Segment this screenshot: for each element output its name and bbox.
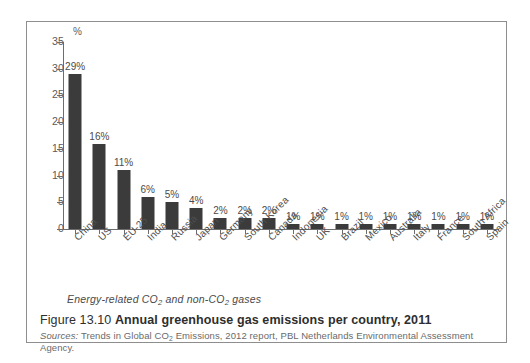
bar-value-label: 1% xyxy=(334,211,348,222)
figure-sources-label: Sources: xyxy=(40,330,78,341)
bar[interactable] xyxy=(93,144,106,229)
bar-value-label: 16% xyxy=(89,131,109,142)
y-axis-tick: 5 xyxy=(27,202,64,203)
bar-group[interactable]: 5% xyxy=(160,42,184,229)
bar-group[interactable]: 11% xyxy=(111,42,135,229)
figure-frame: % 05101520253035 29%16%11%6%5%4%2%2%2%1%… xyxy=(26,21,507,343)
y-axis-tick: 0 xyxy=(27,229,64,230)
bar-group[interactable]: 1% xyxy=(451,42,475,229)
bar-group[interactable]: 4% xyxy=(184,42,208,229)
bar-value-label: 4% xyxy=(189,195,203,206)
chart-note: Energy-related CO2 and non-CO2 gases xyxy=(67,293,261,307)
y-axis-tick: 10 xyxy=(27,176,64,177)
bar-group[interactable]: 1% xyxy=(354,42,378,229)
bar-group[interactable]: 1% xyxy=(378,42,402,229)
y-axis-tick: 35 xyxy=(27,42,64,43)
y-axis-tick-label: 35 xyxy=(40,35,64,47)
figure-caption-number: Figure 13.10 xyxy=(40,313,111,327)
bar-value-label: 11% xyxy=(114,157,133,168)
bar-group[interactable]: 2% xyxy=(208,42,232,229)
figure-sources: Sources: Trends in Global CO2 Emissions,… xyxy=(40,330,506,353)
bar-group[interactable]: 1% xyxy=(305,42,329,229)
y-axis-unit-label: % xyxy=(73,26,82,37)
bar-value-label: 1% xyxy=(431,211,445,222)
y-axis-tick-label: 5 xyxy=(40,195,64,207)
y-axis-tick: 30 xyxy=(27,69,64,70)
figure-caption: Figure 13.10 Annual greenhouse gas emiss… xyxy=(40,313,432,327)
figure-sources-text: Trends in Global CO2 Emissions, 2012 rep… xyxy=(40,330,473,353)
chart-plot-area: % 05101520253035 29%16%11%6%5%4%2%2%2%1%… xyxy=(27,22,508,254)
bar-value-label: 2% xyxy=(213,205,227,216)
y-axis-tick-label: 25 xyxy=(40,88,64,100)
x-axis-category-labels: ChinaUSEU-25IndiaRussiaJapanGermanySouth… xyxy=(63,235,499,297)
figure-caption-title: Annual greenhouse gas emissions per coun… xyxy=(115,313,432,327)
bar-group[interactable]: 1% xyxy=(329,42,353,229)
y-axis-tick: 25 xyxy=(27,95,64,96)
y-axis-tick-label: 15 xyxy=(40,142,64,154)
bar-group[interactable]: 1% xyxy=(402,42,426,229)
bar[interactable] xyxy=(69,74,82,229)
y-axis-tick-label: 30 xyxy=(40,62,64,74)
bar-value-label: 5% xyxy=(165,189,179,200)
bar-value-label: 29% xyxy=(65,61,85,72)
bar-value-label: 6% xyxy=(141,184,155,195)
bar-group[interactable]: 1% xyxy=(426,42,450,229)
bar-group[interactable]: 16% xyxy=(87,42,111,229)
y-axis-tick-label: 20 xyxy=(40,115,64,127)
y-axis-tick: 15 xyxy=(27,149,64,150)
bar[interactable] xyxy=(117,170,130,229)
bar-group[interactable]: 29% xyxy=(63,42,87,229)
bar-group[interactable]: 2% xyxy=(233,42,257,229)
y-axis-tick-label: 10 xyxy=(40,169,64,181)
y-axis-tick-mark xyxy=(57,229,64,230)
y-axis-tick: 20 xyxy=(27,122,64,123)
bar-group[interactable]: 6% xyxy=(136,42,160,229)
y-axis-tick-label: 0 xyxy=(40,222,64,234)
